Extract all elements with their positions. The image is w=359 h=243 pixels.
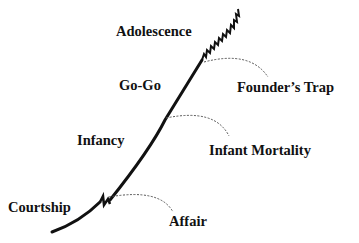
- lifecycle-diagram: Adolescence Go-Go Infancy Courtship Foun…: [0, 0, 359, 243]
- pathology-label-affair: Affair: [169, 214, 207, 229]
- affair-branch: [109, 195, 173, 212]
- stage-label-adolescence: Adolescence: [116, 24, 192, 39]
- infant-mortality-branch: [166, 115, 229, 136]
- stage-label-infancy: Infancy: [77, 133, 125, 148]
- pathology-label-infant-mortality: Infant Mortality: [209, 143, 311, 158]
- adolescence-zigzag: [202, 9, 239, 60]
- stage-label-courtship: Courtship: [8, 200, 71, 215]
- pathology-label-founders-trap: Founder’s Trap: [237, 80, 334, 95]
- stage-label-go-go: Go-Go: [119, 78, 161, 93]
- courtship-zigzag: [100, 196, 110, 205]
- founders-trap-branch: [204, 58, 268, 77]
